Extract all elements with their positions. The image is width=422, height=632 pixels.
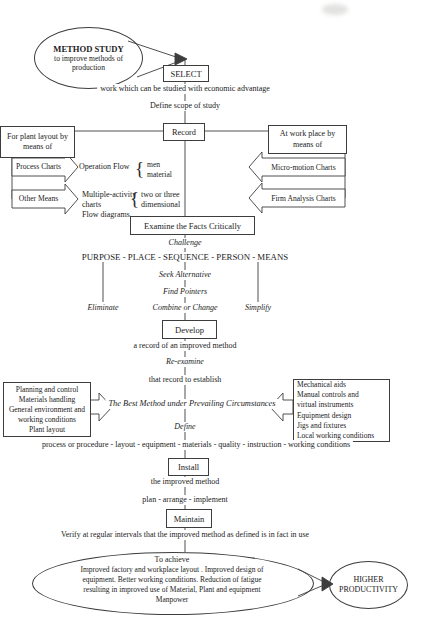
- simplify-label: Simplify: [245, 303, 271, 313]
- mechanical-aids-box: Mechanical aids Manual controls and virt…: [293, 379, 390, 442]
- to-achieve-label: To achieve: [155, 555, 190, 565]
- re-examine-label: Re-examine: [163, 357, 207, 367]
- firm-analysis-charts-label: Firm Analysis Charts: [262, 194, 345, 204]
- brace-icon: {: [135, 159, 144, 179]
- work-place-header-box: At work place by means of: [268, 125, 347, 154]
- maintain-step-box: Maintain: [166, 509, 212, 528]
- plan-arrange-implement-label: plan - arrange - implement: [139, 495, 230, 505]
- develop-step-box: Develop: [162, 320, 217, 339]
- method-study-subtitle: to improve methods of production: [54, 54, 123, 72]
- best-method-label: The Best Method under Prevailing Circums…: [105, 399, 278, 409]
- micro-motion-charts-label: Micro-motion Charts: [262, 163, 345, 173]
- method-study-ellipse: METHOD STUDY to improve methods of produ…: [34, 27, 143, 89]
- flow-diagrams-label: Flow diagrams: [82, 210, 130, 220]
- establish-note: that record to establish: [146, 375, 225, 385]
- achievements-text: Improved factory and workplace layout . …: [80, 565, 263, 605]
- find-pointers-label: Find Pointers: [160, 287, 210, 297]
- combine-or-change-label: Combine or Change: [150, 303, 221, 313]
- multiple-activity-label: Multiple-activity charts: [82, 190, 136, 210]
- method-study-title: METHOD STUDY: [53, 44, 123, 54]
- plant-layout-header-box: For plant layout by means of: [0, 126, 75, 158]
- method-study-flowchart: METHOD STUDY to improve methods of produ…: [0, 0, 422, 632]
- install-note: the improved method: [148, 477, 222, 487]
- process-charts-label: Process Charts: [12, 162, 65, 172]
- verify-note: Verify at regular intervals that the imp…: [58, 530, 312, 540]
- record-step-box: Record: [163, 123, 205, 141]
- higher-productivity-ellipse: HIGHER PRODUCTIVITY: [329, 561, 408, 609]
- define-scope-note: Define scope of study: [147, 101, 223, 111]
- eliminate-label: Eliminate: [87, 303, 118, 313]
- select-step-box: SELECT: [163, 65, 209, 82]
- define-note: process or procedure - layout - equipmen…: [39, 440, 353, 450]
- operation-flow-label: Operation Flow: [79, 162, 129, 172]
- select-note: work which can be studied with economic …: [97, 84, 273, 94]
- develop-note: a record of an improved method: [131, 341, 240, 351]
- planning-conditions-box: Planning and control Materials handling …: [3, 382, 91, 437]
- seek-alternative-label: Seek Alternative: [156, 270, 214, 280]
- two-or-three-label: two or three dimensional: [141, 190, 180, 210]
- examine-step-box: Examine the Facts Critically: [130, 216, 255, 235]
- install-step-box: Install: [168, 458, 209, 476]
- brace-icon: {: [130, 189, 139, 209]
- challenge-label: Challenge: [166, 238, 205, 248]
- questions-line: PURPOSE - PLACE - SEQUENCE - PERSON - ME…: [79, 252, 291, 262]
- men-material-label: men material: [147, 160, 172, 179]
- other-means-label: Other Means: [12, 194, 65, 204]
- define-label: Define: [171, 422, 198, 432]
